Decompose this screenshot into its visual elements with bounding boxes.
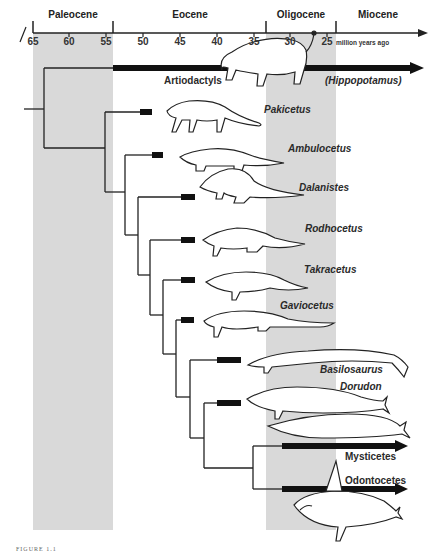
takracetus-range-bar (181, 277, 195, 283)
label-mysticetes: Mysticetes (345, 451, 396, 462)
axis-unit-label: million years ago (336, 39, 389, 46)
tick-35: 35 (248, 36, 259, 47)
figure-caption: FIGURE 1.1 (16, 546, 57, 552)
tick-55: 55 (100, 36, 111, 47)
label-ambulocetus: Ambulocetus (288, 143, 351, 154)
pakicetus-illustration (167, 101, 261, 132)
period-oligocene: Oligocene (277, 9, 325, 20)
mysticetes-range-bar (282, 443, 397, 449)
tick-60: 60 (63, 36, 74, 47)
dalanistes-range-bar (181, 194, 195, 200)
tick-50: 50 (137, 36, 148, 47)
artiodactyls-arrowhead (410, 62, 424, 74)
label-basilosaurus: Basilosaurus (320, 364, 383, 375)
tick-65: 65 (27, 36, 38, 47)
label-odontocetes: Odontocetes (345, 475, 406, 486)
label-dorudon: Dorudon (340, 381, 382, 392)
period-paleocene: Paleocene (48, 9, 97, 20)
tick-40: 40 (211, 36, 222, 47)
basilosaurus-range-bar (217, 357, 241, 363)
label-rodhocetus: Rodhocetus (305, 223, 363, 234)
tick-25: 25 (321, 36, 332, 47)
label-takracetus: Takracetus (304, 264, 356, 275)
period-eocene: Eocene (172, 9, 208, 20)
label-dalanistes: Dalanistes (299, 182, 349, 193)
tick-30: 30 (284, 36, 295, 47)
period-miocene: Miocene (358, 9, 398, 20)
label-gaviocetus: Gaviocetus (280, 300, 334, 311)
label-artiodactyls: Artiodactyls (164, 75, 222, 86)
paleocene-band (33, 33, 113, 530)
rodhocetus-range-bar (181, 237, 195, 243)
dorudon-range-bar (217, 400, 241, 406)
ambulocetus-range-bar (152, 152, 163, 158)
label-pakicetus: Pakicetus (264, 104, 311, 115)
mysticetes-arrowhead (395, 440, 408, 452)
pakicetus-range-bar (140, 109, 152, 115)
tick-45: 45 (174, 36, 185, 47)
label-hippopotamus: (Hippopotamus) (325, 75, 402, 86)
gaviocetus-range-bar (181, 317, 194, 323)
